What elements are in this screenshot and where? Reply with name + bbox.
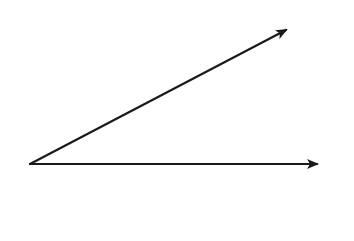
vertex-point	[30, 164, 31, 165]
upper-ray	[30, 30, 286, 164]
angle-diagram	[0, 0, 354, 241]
